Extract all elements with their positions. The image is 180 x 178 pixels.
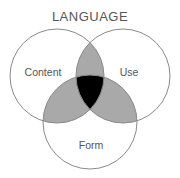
label-form: Form	[79, 139, 104, 151]
label-use: Use	[120, 66, 139, 78]
venn-diagram: Content Use Form	[0, 0, 180, 178]
label-content: Content	[25, 66, 62, 78]
